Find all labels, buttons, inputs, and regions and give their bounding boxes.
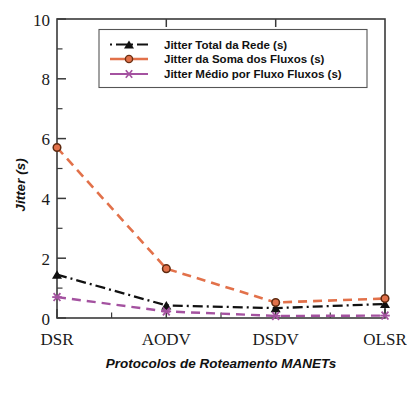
data-point-dsdv xyxy=(272,299,280,307)
legend-label-1: Jitter da Soma dos Fluxos (s) xyxy=(164,53,325,65)
y-tick-label-10: 10 xyxy=(33,11,50,30)
legend-label-2: Jitter Médio por Fluxo Fluxos (s) xyxy=(164,68,342,80)
circle-marker-icon xyxy=(125,55,132,62)
chart-canvas: 0 2 4 6 8 10 Jitter (s) DSR AODV DSDV OL… xyxy=(0,0,407,398)
data-point-dsr xyxy=(53,144,61,152)
x-tick-label-dsr: DSR xyxy=(40,330,74,349)
data-point-olsr xyxy=(381,295,389,303)
x-tick-label-aodv: AODV xyxy=(142,330,192,349)
x-tick-label-olsr: OLSR xyxy=(363,330,407,349)
jitter-line-chart: 0 2 4 6 8 10 Jitter (s) DSR AODV DSDV OL… xyxy=(0,0,407,398)
y-tick-label-8: 8 xyxy=(42,70,51,89)
y-tick-label-2: 2 xyxy=(42,250,51,269)
x-tick-label-dsdv: DSDV xyxy=(253,330,300,349)
y-tick-label-6: 6 xyxy=(42,130,51,149)
y-tick-label-4: 4 xyxy=(42,190,51,209)
data-point-aodv xyxy=(163,265,171,273)
chart-legend: Jitter Total da Rede (s) Jitter da Soma … xyxy=(99,30,367,88)
y-tick-label-0: 0 xyxy=(42,310,51,329)
y-axis-title: Jitter (s) xyxy=(13,158,28,212)
x-axis-title: Protocolos de Roteamento MANETs xyxy=(106,356,337,371)
legend-label-0: Jitter Total da Rede (s) xyxy=(164,39,287,51)
